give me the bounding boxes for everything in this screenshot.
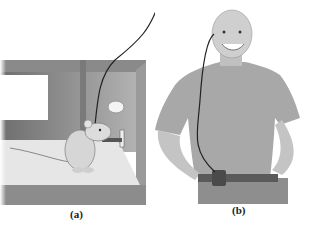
light-bulb-icon [108,101,124,113]
head [212,10,252,58]
panel-a-rat-cage: (a) [0,0,155,228]
stimulator-box [212,170,226,186]
rat-cage-illustration [0,0,155,228]
panel-b-label: (b) [232,204,245,216]
panel-b-man: (b) [150,0,313,228]
right-arm [272,120,294,175]
cage-right-wall [136,62,146,200]
belt [198,174,278,182]
panel-a-label: (a) [70,208,83,220]
man-illustration [150,0,313,228]
